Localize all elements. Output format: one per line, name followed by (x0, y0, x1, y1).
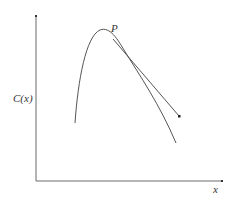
tangent-arrow-icon (178, 115, 181, 118)
x-axis-label: x (213, 184, 218, 195)
curve-tangent-diagram: P C(x) x (0, 0, 235, 201)
point-label-p: P (111, 23, 118, 34)
cost-curve (75, 29, 176, 143)
x-axis-arrow-icon (221, 180, 223, 182)
tangent-line (113, 39, 179, 116)
y-axis-arrow-icon (35, 15, 37, 17)
y-axis-label: C(x) (13, 93, 33, 104)
